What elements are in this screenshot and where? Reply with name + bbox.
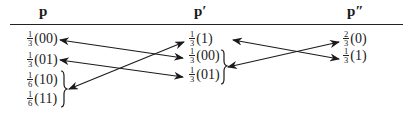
arrow-p00-pprime00 <box>60 40 183 58</box>
brace-p-10-11 <box>61 71 67 107</box>
arrow-pprime1-pdoubleprime1 <box>233 40 339 59</box>
brace-p-prime-00-01 <box>221 50 227 84</box>
arrow-p01-pprime01 <box>60 60 183 77</box>
arrow-pprime00-01-pdoubleprime0 <box>228 42 339 67</box>
arrow-p10-11-pprime1 <box>69 42 184 89</box>
